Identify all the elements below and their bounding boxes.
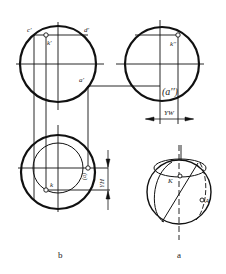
front-view xyxy=(16,22,160,200)
drawing-canvas: c' d' k' a' k'' (a'') YW k (a) YH K A b … xyxy=(0,0,226,274)
sphere-projection-figure: c' d' k' a' k'' (a'') YW k (a) YH K A b … xyxy=(0,0,226,274)
label-k-double-prime: k'' xyxy=(170,40,177,48)
label-a: (a) xyxy=(81,173,88,180)
label-a-double-prime: (a'') xyxy=(162,86,179,98)
label-c-prime: c' xyxy=(27,26,32,34)
sphere-pictorial xyxy=(147,145,211,240)
dimension-yh: YH xyxy=(98,178,106,188)
caption-b: b xyxy=(58,250,63,260)
caption-a: a xyxy=(177,250,181,260)
label-d-prime: d' xyxy=(84,26,90,34)
label-k: k xyxy=(50,181,54,189)
label-a-prime: a' xyxy=(79,76,85,84)
dimension-yw: YW xyxy=(164,109,175,117)
top-view xyxy=(18,125,110,212)
label-A-text: A xyxy=(204,197,210,205)
label-K: K xyxy=(167,177,173,185)
side-view xyxy=(116,20,204,124)
label-k-prime: k' xyxy=(47,39,52,47)
